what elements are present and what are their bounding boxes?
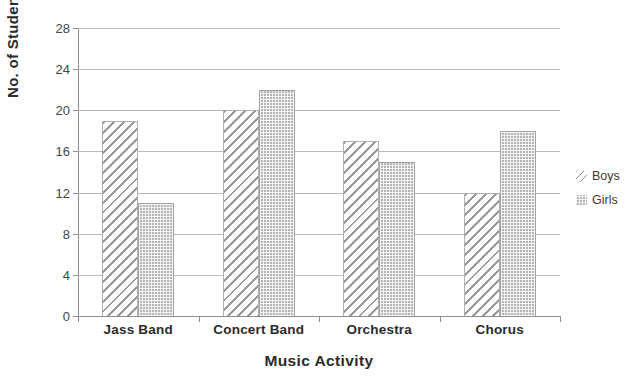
bar-girls-chorus bbox=[500, 131, 536, 316]
y-tick-mark bbox=[73, 234, 78, 235]
y-tick-mark bbox=[73, 275, 78, 276]
bar-girls-jass-band bbox=[138, 203, 174, 316]
y-tick-mark bbox=[73, 151, 78, 152]
y-tick-label: 24 bbox=[56, 62, 70, 77]
legend-entry-boys[interactable]: Boys bbox=[576, 164, 632, 188]
x-axis-category-label: Concert Band bbox=[213, 322, 304, 337]
legend-label: Boys bbox=[592, 169, 620, 183]
y-tick-label: 4 bbox=[63, 267, 70, 282]
x-axis-category-label: Chorus bbox=[476, 322, 524, 337]
y-tick-label: 8 bbox=[63, 226, 70, 241]
y-tick-mark bbox=[73, 193, 78, 194]
bar-girls-concert-band bbox=[259, 90, 295, 316]
x-tick-mark bbox=[440, 316, 441, 322]
y-tick-mark bbox=[73, 69, 78, 70]
bar-boys-orchestra bbox=[343, 141, 379, 316]
gridline bbox=[78, 28, 560, 29]
x-tick-mark bbox=[78, 316, 79, 322]
bar-chart: No. of Students 0481216202428 Music Acti… bbox=[0, 0, 632, 383]
gridline bbox=[78, 69, 560, 70]
legend-swatch-icon bbox=[576, 171, 587, 182]
bar-boys-jass-band bbox=[102, 121, 138, 316]
y-tick-label: 20 bbox=[56, 103, 70, 118]
y-axis-line bbox=[78, 28, 79, 316]
y-tick-mark bbox=[73, 28, 78, 29]
x-tick-mark bbox=[560, 316, 561, 322]
plot-area: 0481216202428 bbox=[78, 28, 560, 316]
legend-entry-girls[interactable]: Girls bbox=[576, 188, 632, 212]
gridline bbox=[78, 151, 560, 152]
bar-boys-chorus bbox=[464, 193, 500, 316]
x-tick-mark bbox=[319, 316, 320, 322]
x-axis-category-label: Orchestra bbox=[346, 322, 412, 337]
y-tick-label: 28 bbox=[56, 21, 70, 36]
bar-girls-orchestra bbox=[379, 162, 415, 316]
y-tick-label: 16 bbox=[56, 144, 70, 159]
chart-legend: BoysGirls bbox=[576, 164, 632, 212]
y-tick-mark bbox=[73, 110, 78, 111]
bar-boys-concert-band bbox=[223, 110, 259, 316]
y-tick-label: 12 bbox=[56, 185, 70, 200]
legend-swatch-icon bbox=[576, 195, 587, 206]
legend-label: Girls bbox=[592, 193, 618, 207]
gridline bbox=[78, 110, 560, 111]
x-tick-mark bbox=[199, 316, 200, 322]
x-axis-title: Music Activity bbox=[78, 352, 560, 370]
y-axis-title: No. of Students bbox=[4, 0, 26, 98]
x-axis-category-label: Jass Band bbox=[104, 322, 173, 337]
y-tick-label: 0 bbox=[63, 309, 70, 324]
